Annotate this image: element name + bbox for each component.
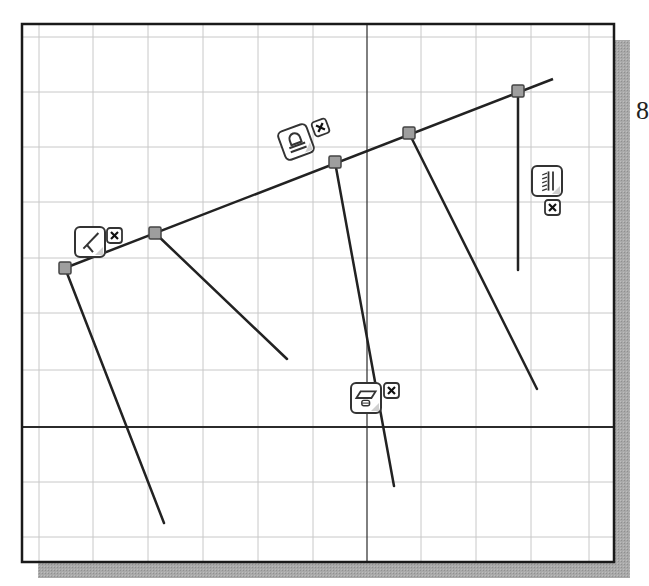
- sketch-point-p5[interactable]: [512, 85, 524, 97]
- delete-constraint-icon[interactable]: [107, 228, 122, 243]
- sketch-point-p2[interactable]: [149, 227, 161, 239]
- sketch-point-p3[interactable]: [329, 156, 341, 168]
- sketch-point-p4[interactable]: [403, 127, 415, 139]
- horizontal-icon[interactable]: [351, 383, 381, 413]
- page-number-fragment: 8: [636, 98, 649, 124]
- sketch-point-p1[interactable]: [59, 262, 71, 274]
- graphics-window: [22, 24, 614, 562]
- shadow-right: [614, 40, 630, 578]
- delete-constraint-icon[interactable]: [384, 383, 399, 398]
- perpendicular-icon[interactable]: [75, 227, 105, 257]
- delete-constraint-icon[interactable]: [545, 200, 560, 215]
- vertical-icon[interactable]: [532, 166, 562, 196]
- shadow-bottom: [38, 562, 630, 578]
